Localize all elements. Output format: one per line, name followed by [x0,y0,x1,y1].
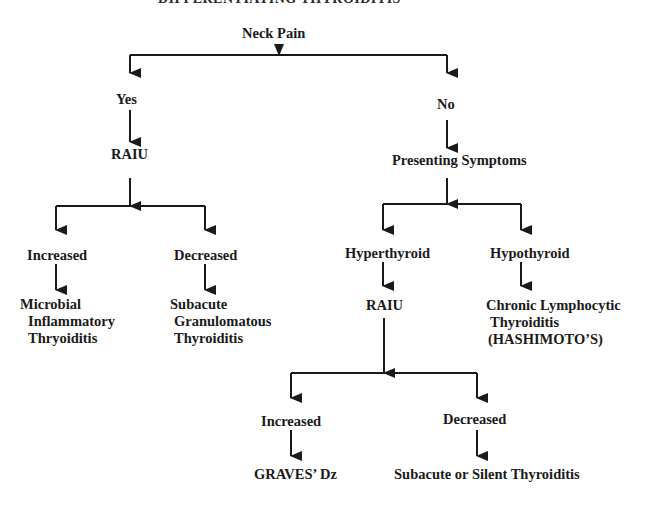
node-microbial-inflammatory-thyroiditis: Microbial Inflammatory Thryoiditis [20,296,115,347]
node-left-increased: Increased [27,247,87,264]
node-raiu-right: RAIU [366,297,403,314]
node-presenting-symptoms: Presenting Symptoms [392,152,527,169]
node-left-decreased: Decreased [174,247,237,264]
hashimoto-line-3: (HASHIMOTO’S) [486,331,621,348]
node-graves-disease: GRAVES’ Dz [254,466,337,483]
node-subacute-or-silent-thyroiditis: Subacute or Silent Thyroiditis [394,466,580,483]
granulomatous-line-1: Subacute [170,296,272,313]
node-neck-pain: Neck Pain [242,25,305,42]
node-hyperthyroid: Hyperthyroid [345,245,430,262]
microbial-line-1: Microbial [20,296,115,313]
node-raiu-left: RAIU [111,146,148,163]
hashimoto-line-1: Chronic Lymphocytic [486,297,621,314]
microbial-line-3: Thryoiditis [20,330,115,347]
node-subacute-granulomatous-thyroiditis: Subacute Granulomatous Thyroiditis [170,296,272,347]
node-yes: Yes [116,91,137,108]
node-hypothyroid: Hypothyroid [490,245,570,262]
microbial-line-2: Inflammatory [20,313,115,330]
node-chronic-lymphocytic-thyroiditis: Chronic Lymphocytic Thyroiditis (HASHIMO… [486,297,621,348]
granulomatous-line-2: Granulomatous [170,313,272,330]
node-right-increased: Increased [261,413,321,430]
node-right-decreased: Decreased [443,411,506,428]
granulomatous-line-3: Thyroiditis [170,330,272,347]
node-no: No [437,96,455,113]
hashimoto-line-2: Thyroiditis [486,314,621,331]
flowchart-canvas: DIFFERENTIATING THYROIDITIS [0,0,654,506]
